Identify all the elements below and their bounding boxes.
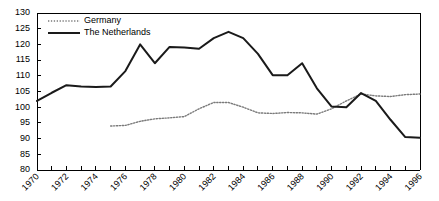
- x-tick-label-1976: 1976: [108, 171, 129, 192]
- x-tick-label-1992: 1992: [344, 171, 365, 192]
- x-tick-label-1980: 1980: [167, 171, 188, 192]
- x-tick-label-1970: 1970: [20, 171, 41, 192]
- y-tick-label-80: 80: [20, 164, 30, 174]
- chart-legend: GermanyThe Netherlands: [48, 15, 151, 37]
- y-tick-label-125: 125: [15, 23, 30, 33]
- x-tick-label-1996: 1996: [403, 171, 424, 192]
- x-tick-label-1994: 1994: [373, 171, 394, 192]
- legend-label-germany: Germany: [84, 15, 122, 25]
- x-tick-label-1972: 1972: [49, 171, 70, 192]
- y-tick-label-95: 95: [20, 117, 30, 127]
- y-tick-label-105: 105: [15, 86, 30, 96]
- y-tick-label-110: 110: [16, 70, 30, 80]
- x-tick-label-1988: 1988: [285, 171, 306, 192]
- x-tick-label-1990: 1990: [314, 171, 335, 192]
- y-tick-label-100: 100: [15, 102, 30, 112]
- x-tick-label-1986: 1986: [255, 171, 276, 192]
- series-line-the-netherlands: [37, 32, 420, 138]
- x-tick-label-1974: 1974: [79, 171, 100, 192]
- chart-canvas: 80859095100105110115120125130 1970197219…: [0, 0, 439, 201]
- y-tick-label-115: 115: [16, 54, 30, 64]
- line-chart: 80859095100105110115120125130 1970197219…: [0, 0, 439, 201]
- y-tick-label-90: 90: [20, 133, 30, 143]
- x-tick-label-1982: 1982: [196, 171, 217, 192]
- y-tick-label-130: 130: [15, 7, 30, 17]
- x-tick-label-1978: 1978: [138, 171, 159, 192]
- y-tick-label-120: 120: [15, 39, 30, 49]
- data-series-group: [37, 32, 420, 138]
- x-tick-label-1984: 1984: [226, 171, 247, 192]
- y-tick-label-85: 85: [20, 149, 30, 159]
- legend-label-the-netherlands: The Netherlands: [84, 27, 151, 37]
